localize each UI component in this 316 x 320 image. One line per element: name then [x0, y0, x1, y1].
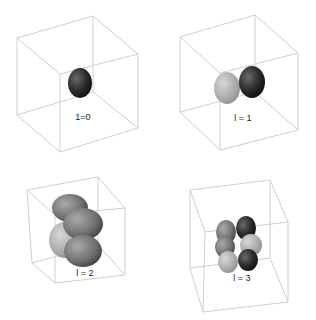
panel-l2: l = 2	[27, 177, 125, 283]
panel-l0: 1=0	[17, 16, 138, 152]
orbital-lobe	[64, 235, 102, 267]
orbital-lobe-positive	[214, 72, 240, 104]
orbital-lobe-negative	[239, 66, 265, 98]
orbital-lobe	[218, 251, 238, 273]
panel-l1: l = 1	[180, 15, 298, 150]
orbital-diagram: 1=0 l = 1 l = 2	[0, 0, 316, 320]
orbital-lobe	[238, 249, 258, 271]
orbital-lobe	[68, 68, 92, 98]
cube-wireframe	[190, 180, 288, 312]
orbital-label: l = 1	[234, 113, 251, 123]
orbital-label: l = 3	[233, 273, 250, 283]
panel-l3: l = 3	[190, 180, 288, 312]
orbital-label: 1=0	[75, 112, 90, 122]
orbital-label: l = 2	[76, 268, 93, 278]
